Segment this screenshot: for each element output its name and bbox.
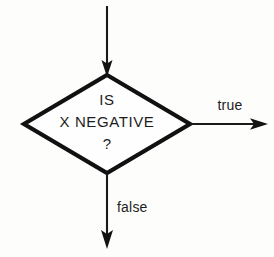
flowchart-canvas: IS X NEGATIVE ? true false (0, 0, 274, 257)
decision-text-line-1: IS (99, 91, 114, 108)
false-branch-edge (101, 173, 113, 249)
true-branch-edge (190, 118, 268, 130)
false-branch-label: false (117, 199, 148, 215)
decision-text-line-2: X NEGATIVE (60, 113, 155, 130)
decision-text-line-3: ? (103, 135, 111, 152)
true-branch-label: true (218, 97, 243, 113)
incoming-edge (102, 6, 113, 77)
flowchart-svg: IS X NEGATIVE ? true false (0, 0, 274, 257)
